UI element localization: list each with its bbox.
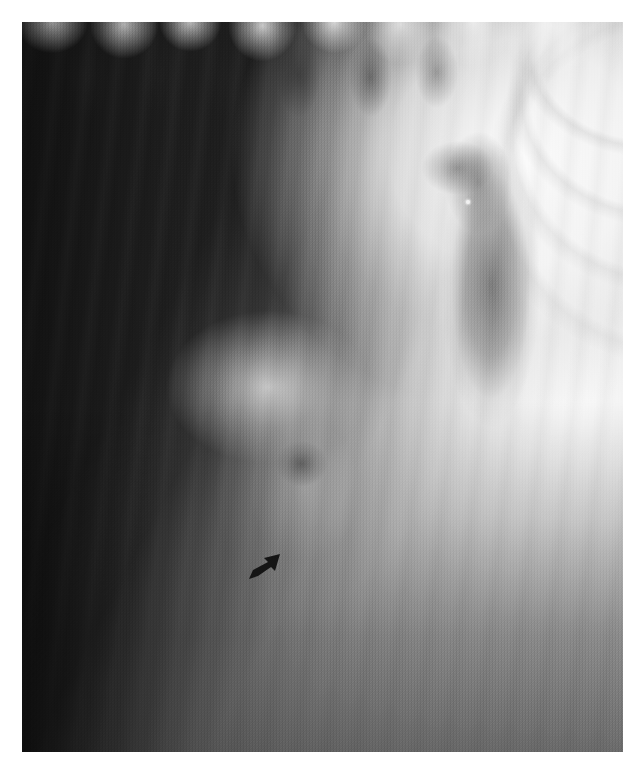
rib-arcs-overlay bbox=[22, 22, 623, 752]
bright-punctate-dot bbox=[466, 200, 470, 204]
lower-dark-field bbox=[22, 22, 623, 752]
figure-modality-label: Plain radiograph (grayscale film) bbox=[0, 0, 1, 1]
film-grain-layer-2 bbox=[22, 22, 623, 752]
left-soft-tissue-lobe bbox=[22, 22, 623, 752]
radiograph-plate bbox=[22, 22, 623, 752]
scalloped-upper-margin bbox=[22, 22, 623, 142]
film-grain-layer bbox=[22, 22, 623, 752]
figure-caption bbox=[0, 0, 1, 1]
page-root: Plain radiograph (grayscale film) bbox=[0, 0, 634, 765]
soft-tissue-striations bbox=[22, 22, 623, 752]
bright-right-halo bbox=[22, 22, 623, 752]
left-edge-shading bbox=[22, 22, 623, 752]
vertical-dark-viscus bbox=[22, 22, 623, 752]
viscus-upper-wedge bbox=[22, 22, 623, 752]
scallop-trough-shadows bbox=[22, 28, 623, 158]
tone-base-layer bbox=[22, 22, 623, 752]
left-nodular-shadow bbox=[22, 22, 623, 752]
arrow-marker bbox=[244, 546, 284, 586]
